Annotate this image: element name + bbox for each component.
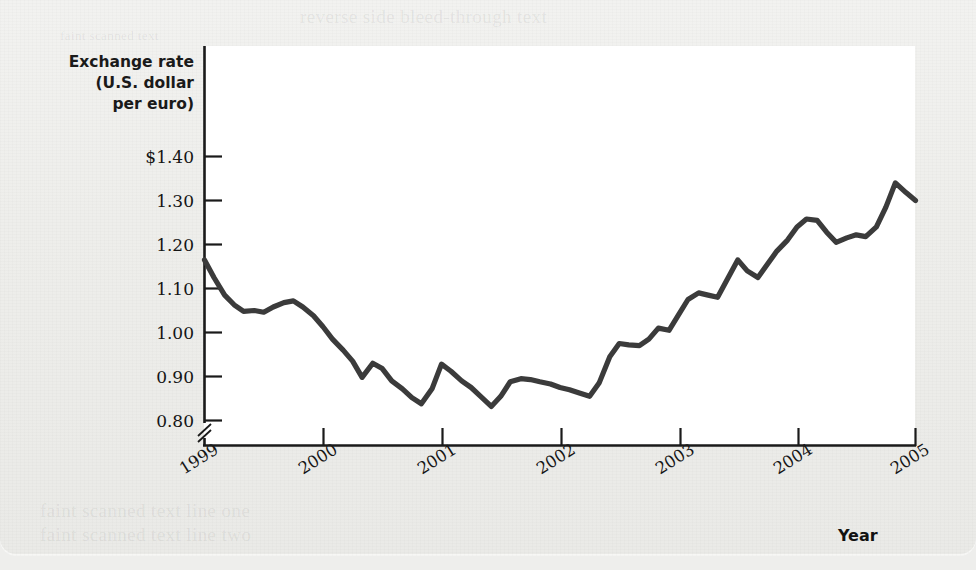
chart-svg <box>0 0 976 570</box>
figure-page: faint scanned text reverse side bleed-th… <box>0 0 976 570</box>
x-axis-ticks <box>324 428 916 446</box>
exchange-rate-line <box>205 183 916 407</box>
